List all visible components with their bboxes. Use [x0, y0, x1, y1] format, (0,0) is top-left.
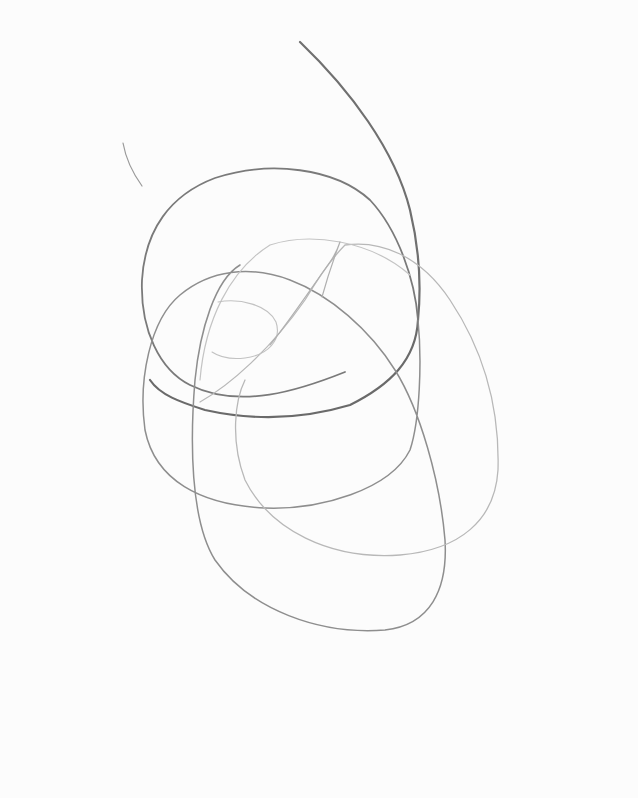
paper-sheet	[0, 0, 638, 798]
light-loop-stroke	[200, 244, 498, 555]
small-arc-stroke	[123, 143, 142, 186]
middle-loop-stroke	[143, 265, 445, 631]
inner-loop-stroke	[212, 301, 277, 359]
pencil-drawing	[0, 0, 638, 798]
top-loop-stroke	[142, 169, 418, 397]
dark-arc-stroke	[150, 320, 418, 417]
spike-stroke	[270, 242, 340, 345]
